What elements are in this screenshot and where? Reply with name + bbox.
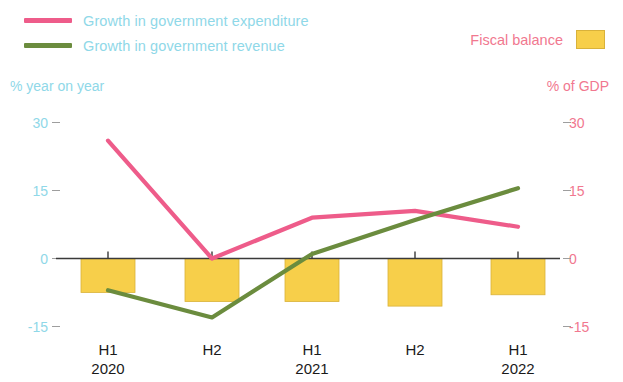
x-label-period: H2 (370, 340, 460, 359)
plot-area (0, 0, 623, 382)
x-axis-label: H12021 (267, 340, 357, 378)
x-label-period: H1 (473, 340, 563, 359)
x-axis-label: H12020 (63, 340, 153, 378)
x-axis-label: H2 (167, 340, 257, 359)
x-axis-label: H12022 (473, 340, 563, 378)
x-label-period: H1 (63, 340, 153, 359)
x-label-period: H2 (167, 340, 257, 359)
chart-container: Growth in government expenditure Growth … (0, 0, 623, 382)
fiscal-balance-bar (491, 259, 545, 295)
fiscal-balance-bar (81, 259, 135, 293)
x-label-year: 2021 (267, 359, 357, 378)
fiscal-balance-bar (185, 259, 239, 302)
x-label-year: 2022 (473, 359, 563, 378)
x-axis-label: H2 (370, 340, 460, 359)
series-line (108, 141, 518, 259)
x-label-period: H1 (267, 340, 357, 359)
fiscal-balance-bar (388, 259, 442, 307)
x-label-year: 2020 (63, 359, 153, 378)
